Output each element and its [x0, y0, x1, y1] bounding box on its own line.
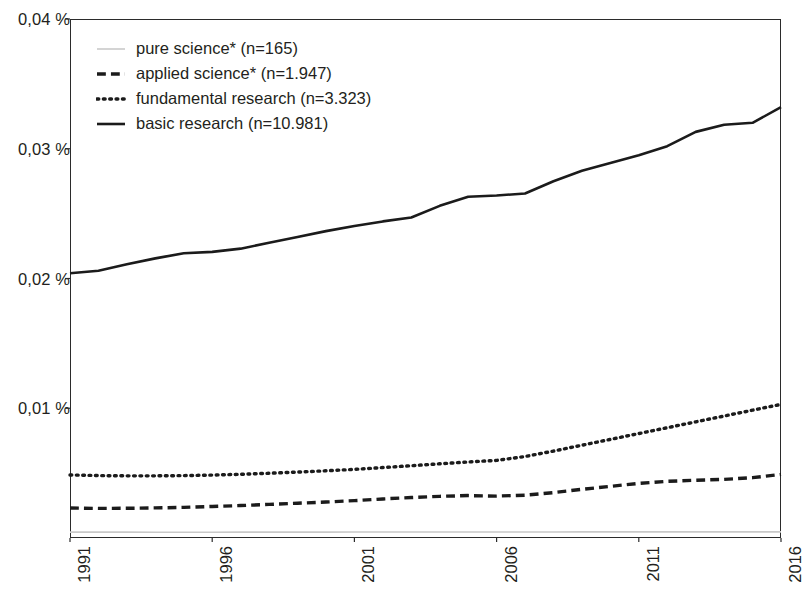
chart-legend: pure science* (n=165)applied science* (n…: [96, 36, 516, 136]
y-axis-tick-004: 0,04 %: [18, 11, 70, 28]
legend-item-applied-science[interactable]: applied science* (n=1.947): [96, 61, 516, 86]
x-axis-tick-2001: 2001: [360, 546, 377, 583]
x-axis-tick-1991: 1991: [76, 546, 93, 583]
legend-item-fundamental-research[interactable]: fundamental research (n=3.323): [96, 86, 516, 111]
x-axis-tick-2016: 2016: [787, 546, 804, 583]
legend-label-basic-research: basic research (n=10.981): [136, 115, 328, 132]
legend-item-basic-research[interactable]: basic research (n=10.981): [96, 111, 516, 136]
legend-label-fundamental-research: fundamental research (n=3.323): [136, 90, 371, 107]
y-axis-tick-003: 0,03 %: [18, 141, 70, 158]
legend-swatch-fundamental-research-icon: [96, 92, 126, 106]
y-axis-tick-002: 0,02 %: [18, 270, 70, 287]
legend-swatch-basic-research-icon: [96, 117, 126, 131]
x-axis-tick-2011: 2011: [645, 546, 662, 581]
x-axis-tick-2006: 2006: [503, 546, 520, 583]
legend-item-pure-science[interactable]: pure science* (n=165): [96, 36, 516, 61]
legend-label-applied-science: applied science* (n=1.947): [136, 65, 332, 82]
x-axis-tick-1996: 1996: [218, 546, 235, 583]
legend-swatch-pure-science-icon: [96, 42, 126, 56]
legend-label-pure-science: pure science* (n=165): [136, 40, 298, 57]
legend-swatch-applied-science-icon: [96, 67, 126, 81]
y-axis-tick-001: 0,01 %: [18, 400, 70, 417]
